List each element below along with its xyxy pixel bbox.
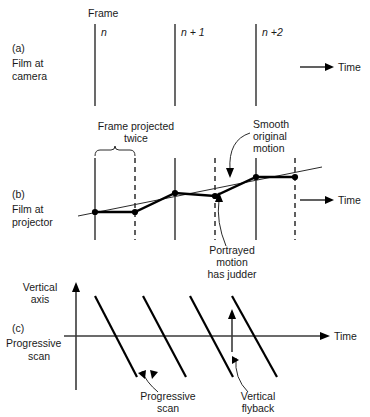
vertical-flyback-label-line2: flyback <box>242 402 275 414</box>
frame-header-label: Frame <box>88 7 118 19</box>
section-b-label-line1: Film at <box>12 203 44 215</box>
section-b-tag: (b) <box>12 188 25 200</box>
figure-page: Frame n n + 1 n +2 (a) Film at camera Ti… <box>0 0 370 417</box>
judder-label-line1: Portrayed <box>209 244 255 256</box>
smooth-motion-label-line3: motion <box>253 142 285 154</box>
frame-label-n-plus-2: n +2 <box>262 26 283 38</box>
vertical-flyback-label-line1: Vertical <box>241 390 275 402</box>
section-b-label-line2: projector <box>12 216 53 228</box>
smooth-motion-label-line1: Smooth <box>253 118 289 130</box>
section-a: Frame n n + 1 n +2 (a) Film at camera Ti… <box>12 7 361 106</box>
smooth-motion-arrowhead <box>226 168 234 178</box>
frame-label-n: n <box>101 26 107 38</box>
section-a-tag: (a) <box>12 42 25 54</box>
section-c-tag: (c) <box>12 322 24 334</box>
frame-projected-bracket <box>95 146 135 156</box>
section-a-label-line2: camera <box>12 70 47 82</box>
time-arrow-b <box>300 196 334 204</box>
judder-dot-2 <box>132 209 138 215</box>
smooth-motion-leader <box>230 133 250 170</box>
judder-dot-6 <box>292 174 298 180</box>
progressive-scan-label-line1: Progressive <box>140 390 196 402</box>
section-c: Vertical axis Time (c) Progressive scan … <box>6 281 357 414</box>
time-axis-label-a: Time <box>338 61 361 73</box>
time-arrow-a <box>300 63 334 71</box>
vertical-flyback-leader <box>236 358 248 392</box>
time-axis-label-b: Time <box>338 194 361 206</box>
progressive-scan-label-line2: scan <box>157 402 179 414</box>
section-a-label-line1: Film at <box>12 57 44 69</box>
frame-projected-label-line1: Frame projected <box>98 120 175 132</box>
vertical-axis-arrowhead <box>72 282 80 292</box>
judder-leader <box>218 200 226 246</box>
vertical-flyback-arrowhead <box>228 309 236 319</box>
section-c-label-line2: scan <box>28 350 50 362</box>
section-b: Frame projected twice Smooth <box>12 118 361 280</box>
vertical-axis-label-line2: axis <box>31 293 50 305</box>
time-axis-label-c: Time <box>334 330 357 342</box>
vertical-axis-label-line1: Vertical <box>23 281 57 293</box>
smooth-motion-line <box>78 167 322 216</box>
judder-dot-1 <box>92 209 98 215</box>
judder-dot-5 <box>253 174 259 180</box>
judder-label-line3: has judder <box>207 268 257 280</box>
timing-diagram: Frame n n + 1 n +2 (a) Film at camera Ti… <box>0 0 370 417</box>
judder-label-line2: motion <box>216 256 248 268</box>
progressive-scan-arrowhead-2 <box>150 370 158 379</box>
smooth-motion-label-line2: original <box>253 130 287 142</box>
frame-projected-label-line2: twice <box>124 132 148 144</box>
frame-label-n-plus-1: n + 1 <box>181 26 205 38</box>
judder-dot-3 <box>172 190 178 196</box>
section-c-label-line1: Progressive <box>6 337 62 349</box>
time-axis-arrowhead-c <box>320 332 330 340</box>
